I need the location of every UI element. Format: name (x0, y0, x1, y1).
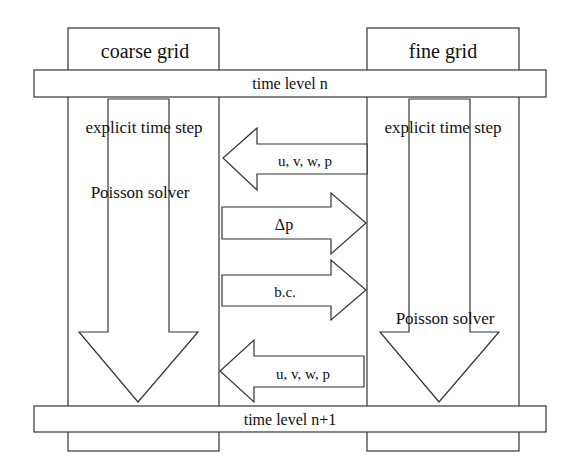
fine-grid-title: fine grid (409, 40, 477, 63)
time-level-n1-label: time level n+1 (244, 411, 337, 428)
arrow-coarse-to-fine-dp (222, 193, 366, 254)
fine-poisson-solver-label: Poisson solver (396, 309, 495, 328)
coarse-grid-title: coarse grid (101, 40, 189, 63)
coarse-poisson-solver-label: Poisson solver (91, 183, 190, 202)
arrow-uvwp-top-label: u, v, w, p (278, 153, 332, 169)
coarse-fine-coupling-diagram: coarse grid fine grid time level n time … (0, 0, 574, 475)
arrow-bc-label: b.c. (274, 284, 296, 300)
arrow-uvwp-bottom-label: u, v, w, p (276, 366, 330, 382)
arrow-dp-label: Δp (275, 216, 293, 234)
coarse-explicit-step-label: explicit time step (85, 118, 202, 137)
fine-explicit-step-label: explicit time step (384, 118, 501, 137)
time-level-n-label: time level n (252, 75, 328, 92)
